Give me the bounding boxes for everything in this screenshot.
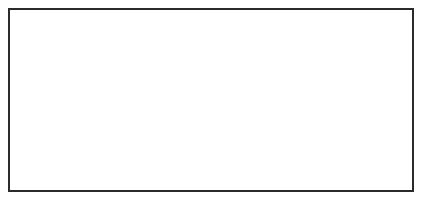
figure-root: (a) (b) (c) (d) <box>0 0 424 202</box>
figure-border <box>8 8 414 192</box>
